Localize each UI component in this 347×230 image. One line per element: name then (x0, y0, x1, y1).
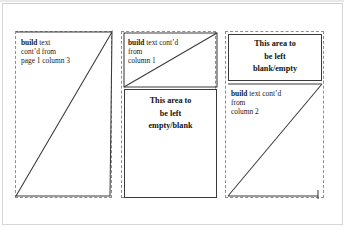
blank-label-column-2: This area to be left empty/blank (124, 95, 217, 133)
build-keyword-3: build (231, 89, 247, 98)
build-keyword-1: build (21, 38, 37, 47)
blank-label-column-3-line-1: This area to (228, 38, 322, 51)
build-text-column-3: build text cont’d from column 2 (231, 89, 281, 117)
build-text-1-line-2: cont’d from (21, 47, 56, 56)
build-text-1-line-3: page 1 column 3 (21, 56, 70, 65)
blank-label-column-2-line-3: empty/blank (124, 120, 217, 133)
build-text-1-line-1: text (37, 38, 50, 47)
diagram-page: build text cont’d from page 1 column 3 b… (0, 0, 347, 230)
blank-label-column-2-line-2: be left (124, 108, 217, 121)
blank-label-column-2-line-1: This area to (124, 95, 217, 108)
build-text-2-line-1: text cont’d (144, 38, 178, 47)
blank-label-column-3-line-2: be left (228, 51, 322, 64)
build-text-column-2: build text cont’d from column 1 (128, 38, 178, 66)
scan-edge-top (0, 0, 344, 2)
build-text-3-line-1: text cont’d (247, 89, 281, 98)
build-text-3-line-3: column 2 (231, 107, 259, 116)
build-keyword-2: build (128, 38, 144, 47)
build-text-3-line-2: from (231, 98, 245, 107)
build-text-2-line-3: column 1 (128, 56, 156, 65)
build-text-2-line-2: from (128, 47, 142, 56)
blank-label-column-3: This area to be left blank/empty (228, 38, 322, 76)
blank-label-column-3-line-3: blank/empty (228, 63, 322, 76)
build-text-column-1: build text cont’d from page 1 column 3 (21, 38, 70, 66)
